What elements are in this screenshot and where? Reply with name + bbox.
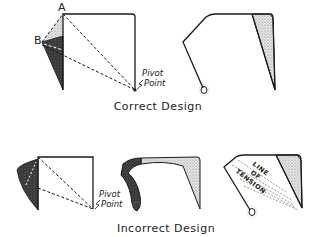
incorrect-design-geometry-figure: Pivot Point <box>17 157 123 210</box>
pivot-arrow-icon <box>137 80 143 89</box>
caption-correct-design: Correct Design <box>114 100 203 113</box>
label-point-b: B <box>34 34 42 47</box>
pivot-arrow-icon <box>95 200 100 209</box>
correct-design-folded-figure <box>183 14 275 96</box>
pivot-label-line1: Pivot <box>99 189 121 199</box>
folding-design-diagram: A B Pivot Point Correct Design Pivot Poi… <box>0 0 317 237</box>
dashed-line-diagonal <box>38 157 93 209</box>
hook-icon <box>249 209 255 216</box>
light-folded-panel <box>141 157 200 209</box>
dark-twisted-panel <box>121 158 141 211</box>
dark-folded-panel <box>17 159 38 210</box>
dashed-line-a-pivot <box>63 14 135 90</box>
correct-design-geometry-figure: A B Pivot Point <box>34 1 166 92</box>
hook-icon <box>201 87 207 94</box>
pivot-label-line2: Point <box>101 199 123 209</box>
caption-incorrect-design: Incorrect Design <box>117 222 215 235</box>
pivot-label-line2: Point <box>144 78 166 88</box>
pivot-dot <box>133 88 136 91</box>
pivot-label-line1: Pivot <box>142 68 164 78</box>
dashed-line-lower <box>38 188 93 209</box>
incorrect-design-tension-figure: LINE OF TENSION <box>224 155 302 218</box>
incorrect-design-twisted-figure <box>121 157 200 214</box>
label-point-a: A <box>58 1 66 14</box>
